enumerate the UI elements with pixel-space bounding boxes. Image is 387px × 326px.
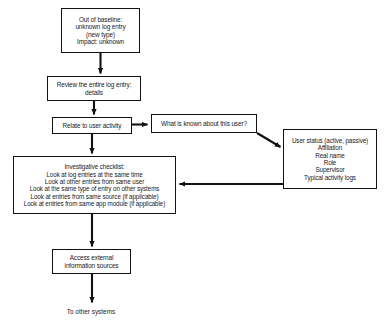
label-to-other-systems: To other systems bbox=[41, 308, 141, 315]
node-what-is-known-about-this-user-label: What is known about this user? bbox=[161, 120, 247, 127]
node-investigative-checklist-item-3: Look at the same type of entry on other … bbox=[30, 185, 160, 192]
node-what-is-known-about-this-user: What is known about this user? bbox=[151, 114, 257, 133]
node-access-external-line-1: Access external bbox=[70, 254, 114, 261]
node-access-external-information-sources: Access external information sources bbox=[52, 249, 131, 274]
node-investigative-checklist: Investigative checklist: Look at log ent… bbox=[13, 156, 176, 214]
flowchart-canvas: Out of baseline: unknown log entry (new … bbox=[0, 0, 387, 326]
node-investigative-checklist-item-4: Look at entries from same source (if app… bbox=[31, 193, 159, 200]
node-out-of-baseline: Out of baseline: unknown log entry (new … bbox=[61, 8, 140, 53]
node-review-log-entry-line-2: details bbox=[85, 89, 103, 96]
arrow-question-to-user-attributes bbox=[257, 133, 281, 147]
node-relate-to-user-activity-label: Relate to user activity bbox=[63, 122, 122, 129]
node-investigative-checklist-item-1: Look at log entries at the same time bbox=[46, 171, 142, 178]
node-out-of-baseline-line-3: (new type) bbox=[86, 31, 115, 38]
node-out-of-baseline-line-4: Impact: unknown bbox=[77, 38, 124, 45]
node-user-attributes: User status (active, passive) Affiliatio… bbox=[283, 129, 377, 189]
node-investigative-checklist-item-2: Look at other entries from same user bbox=[45, 178, 144, 185]
node-user-attributes-line-3: Real name bbox=[315, 152, 345, 159]
node-investigative-checklist-title: Investigative checklist: bbox=[64, 163, 124, 170]
node-out-of-baseline-line-2: unknown log entry bbox=[75, 23, 125, 30]
node-investigative-checklist-item-5: Look at entries from same app module (if… bbox=[24, 200, 165, 207]
node-user-attributes-line-2: Affiliation bbox=[318, 144, 342, 151]
node-review-log-entry: Review the entire log entry: details bbox=[47, 76, 141, 101]
node-user-attributes-line-5: Supervisor bbox=[315, 166, 344, 173]
node-user-attributes-line-1: User status (active, passive) bbox=[292, 137, 368, 144]
node-review-log-entry-line-1: Review the entire log entry: bbox=[57, 81, 132, 88]
node-user-attributes-line-4: Role bbox=[324, 159, 337, 166]
node-user-attributes-line-6: Typical activity logs bbox=[304, 174, 356, 181]
node-relate-to-user-activity: Relate to user activity bbox=[52, 117, 132, 134]
node-access-external-line-2: information sources bbox=[65, 262, 119, 269]
node-out-of-baseline-line-1: Out of baseline: bbox=[79, 16, 122, 23]
